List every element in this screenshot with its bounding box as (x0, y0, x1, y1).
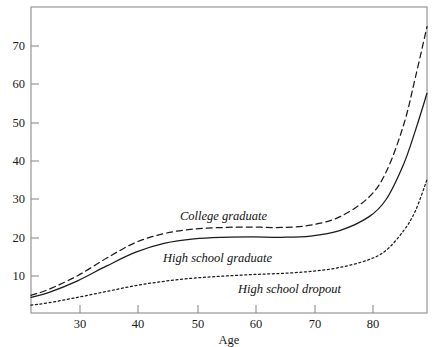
y-tick-label-50: 50 (13, 116, 26, 130)
x-axis-ticks (80, 305, 373, 313)
y-tick-label-20: 20 (13, 231, 26, 245)
x-tick-label-60: 60 (250, 317, 263, 331)
series-line-high-school-graduate (31, 93, 427, 297)
y-axis-ticks (31, 46, 39, 276)
y-tick-label-40: 40 (13, 154, 26, 168)
y-tick-label-10: 10 (13, 269, 26, 283)
series-label-college-graduate: College graduate (180, 209, 268, 223)
series-label-high-school-dropout: High school dropout (237, 282, 342, 296)
series-annotations: College graduate High school graduate Hi… (162, 209, 342, 296)
x-tick-label-80: 80 (367, 317, 380, 331)
x-axis-title: Age (219, 333, 240, 347)
y-axis-tick-labels: 70 60 50 40 30 20 10 (13, 39, 26, 283)
plot-frame (31, 7, 427, 313)
line-chart-svg: 70 60 50 40 30 20 10 30 40 50 60 70 80 A… (0, 0, 440, 347)
x-axis-tick-labels: 30 40 50 60 70 80 (74, 317, 380, 331)
series-label-high-school-graduate: High school graduate (162, 251, 272, 265)
x-tick-label-70: 70 (309, 317, 322, 331)
x-tick-label-30: 30 (74, 317, 87, 331)
chart-figure: 70 60 50 40 30 20 10 30 40 50 60 70 80 A… (0, 0, 440, 347)
x-tick-label-50: 50 (192, 317, 205, 331)
y-tick-label-30: 30 (13, 192, 26, 206)
y-tick-label-70: 70 (13, 39, 26, 53)
series-line-high-school-dropout (31, 180, 427, 306)
x-tick-label-40: 40 (132, 317, 145, 331)
y-tick-label-60: 60 (13, 77, 26, 91)
